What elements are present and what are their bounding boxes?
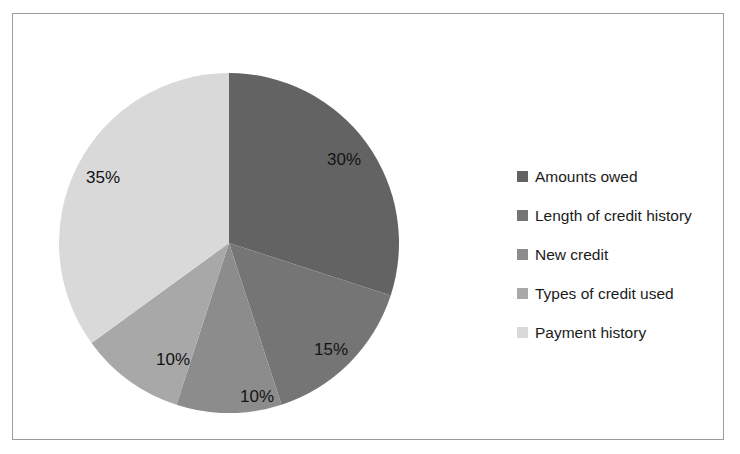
legend-item-label: Types of credit used — [535, 286, 674, 302]
slice-label-amounts-owed: 30% — [327, 150, 361, 169]
chart-frame: 30% 15% 10% 10% 35% Amounts owed Length … — [12, 13, 724, 440]
legend-item-label: New credit — [535, 247, 608, 263]
chart-legend: Amounts owed Length of credit history Ne… — [517, 157, 723, 352]
pie-chart-svg: 30% 15% 10% 10% 35% — [59, 73, 399, 413]
pie-slices — [59, 73, 399, 413]
legend-item-length-of-credit-history[interactable]: Length of credit history — [517, 196, 723, 235]
legend-item-label: Amounts owed — [535, 169, 638, 185]
legend-item-label: Payment history — [535, 325, 646, 341]
chart-page: 30% 15% 10% 10% 35% Amounts owed Length … — [0, 0, 740, 454]
legend-swatch-icon — [517, 171, 528, 182]
legend-swatch-icon — [517, 327, 528, 338]
legend-swatch-icon — [517, 288, 528, 299]
slice-label-length-of-credit-history: 15% — [314, 340, 348, 359]
pie-chart: 30% 15% 10% 10% 35% — [59, 73, 399, 413]
legend-item-amounts-owed[interactable]: Amounts owed — [517, 157, 723, 196]
legend-item-new-credit[interactable]: New credit — [517, 235, 723, 274]
legend-item-payment-history[interactable]: Payment history — [517, 313, 723, 352]
legend-item-types-of-credit-used[interactable]: Types of credit used — [517, 274, 723, 313]
slice-label-types-of-credit-used: 10% — [156, 350, 190, 369]
slice-label-new-credit: 10% — [240, 387, 274, 406]
legend-swatch-icon — [517, 249, 528, 260]
legend-item-label: Length of credit history — [535, 208, 692, 224]
legend-swatch-icon — [517, 210, 528, 221]
slice-label-payment-history: 35% — [86, 168, 120, 187]
